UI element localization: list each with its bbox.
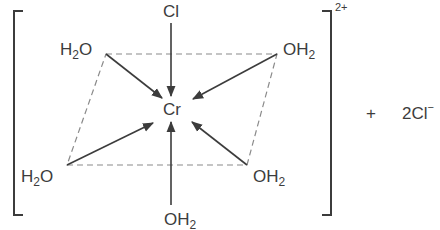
counterion-coefficient: 2 — [402, 104, 411, 123]
ligand-bottom-left-main: H — [21, 167, 33, 186]
bond-arrow-bottom-right — [192, 122, 247, 165]
counterion-charge: − — [428, 101, 434, 113]
ligand-top-left-label: H2O — [60, 40, 92, 62]
bond-arrow-top-left — [106, 54, 162, 98]
right-bracket — [322, 11, 331, 215]
ligand-bottom-subscript: 2 — [190, 218, 197, 230]
ligand-top-right-label: OH2 — [283, 40, 316, 62]
complex-charge: 2+ — [335, 1, 348, 13]
diagram-canvas: Cr Cl H2O OH2 H2O OH2 OH2 2+ + 2Cl− — [0, 0, 440, 230]
counterion-label: 2Cl− — [402, 101, 434, 123]
coordination-complex-diagram: Cr Cl H2O OH2 H2O OH2 OH2 2+ + 2Cl− — [0, 0, 440, 230]
ligand-bottom-main: OH — [164, 210, 190, 229]
ligand-top-label: Cl — [163, 2, 179, 21]
ligand-top-right-subscript: 2 — [309, 48, 316, 62]
metal-center-label: Cr — [163, 100, 181, 119]
ligand-bottom-label: OH2 — [164, 210, 197, 230]
ligand-top-left-tail: O — [79, 40, 92, 59]
ligand-bottom-right-label: OH2 — [253, 167, 286, 189]
ligand-top-right-main: OH — [283, 40, 309, 59]
plus-sign: + — [366, 104, 376, 123]
ligand-bottom-left-label: H2O — [21, 167, 53, 189]
ligand-top-left-main: H — [60, 40, 72, 59]
ligand-bottom-right-main: OH — [253, 167, 279, 186]
bond-arrow-top-right — [193, 54, 277, 99]
ligand-bottom-right-subscript: 2 — [279, 175, 286, 189]
counterion-symbol: Cl — [411, 104, 427, 123]
ligand-bottom-left-tail: O — [40, 167, 53, 186]
